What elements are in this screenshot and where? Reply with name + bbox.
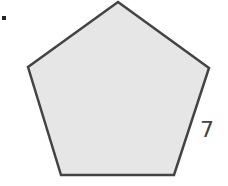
pentagon-diagram: 7: [0, 0, 228, 186]
pentagon-shape: [28, 2, 209, 175]
side-length-label: 7: [200, 117, 214, 142]
bullet-dot: [2, 16, 6, 20]
